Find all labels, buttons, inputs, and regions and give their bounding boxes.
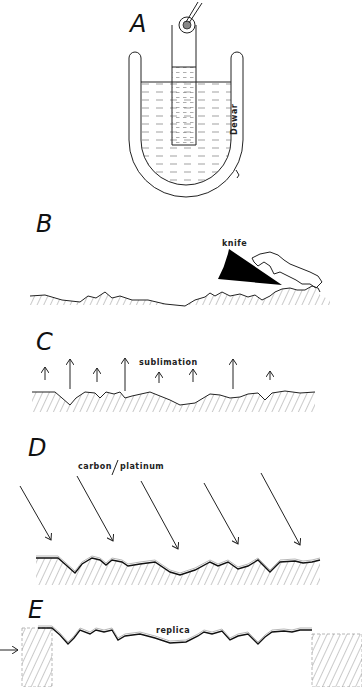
shadowing-arrows: [20, 473, 300, 549]
knife-blade: [218, 249, 282, 285]
replica-label: replica: [156, 626, 190, 635]
separator-slash: [112, 460, 118, 475]
knife-label: knife: [222, 239, 247, 248]
support-left: [22, 628, 52, 687]
panel-label-d: D: [28, 434, 46, 462]
panel-label-c: C: [36, 328, 53, 356]
platinum-label: platinum: [120, 462, 164, 471]
dewar-label: Dewar: [230, 104, 239, 135]
panel-e: E replica: [0, 596, 362, 687]
panel-b: B knife: [30, 210, 330, 306]
carbon-label: carbon: [78, 462, 112, 471]
freeze-fracture-diagram: A Dewar B: [0, 0, 362, 687]
support-right: [312, 634, 362, 687]
sublimation-label: sublimation: [139, 358, 198, 367]
panel-d: D carbon platinum: [20, 434, 320, 585]
panel-label-b: B: [36, 210, 52, 238]
panel-label-e: E: [28, 596, 44, 624]
panel-a: A Dewar: [128, 2, 243, 197]
panel-label-a: A: [128, 10, 146, 38]
panel-c: C sublimation: [32, 328, 315, 412]
